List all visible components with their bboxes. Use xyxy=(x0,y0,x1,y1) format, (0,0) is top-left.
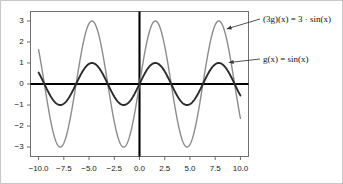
y-tick-label: 0 xyxy=(4,79,24,88)
y-tick-label: 2 xyxy=(4,37,24,46)
y-tick-label: −2 xyxy=(4,121,24,130)
annotation-label-g: g(x) = sin(x) xyxy=(263,54,309,64)
annotation-leaders xyxy=(227,19,260,64)
annotation-label-3g: (3g)(x) = 3 · sin(x) xyxy=(263,14,331,24)
annotation-label-3g-text: (3g)(x) = 3 · sin(x) xyxy=(263,14,331,24)
annotation-label-g-text: g(x) = sin(x) xyxy=(263,54,309,64)
x-tick-label: 10.0 xyxy=(223,164,257,173)
y-tick-label: 3 xyxy=(4,16,24,25)
axis-ticks xyxy=(27,21,240,160)
y-tick-label: −1 xyxy=(4,100,24,109)
sine-transformation-chart: 3210−1−2−3 −10.0−7.5−5.0−2.50.02.55.07.5… xyxy=(0,0,343,184)
plot-area xyxy=(1,1,343,184)
y-tick-label: −3 xyxy=(4,142,24,151)
y-tick-label: 1 xyxy=(4,58,24,67)
